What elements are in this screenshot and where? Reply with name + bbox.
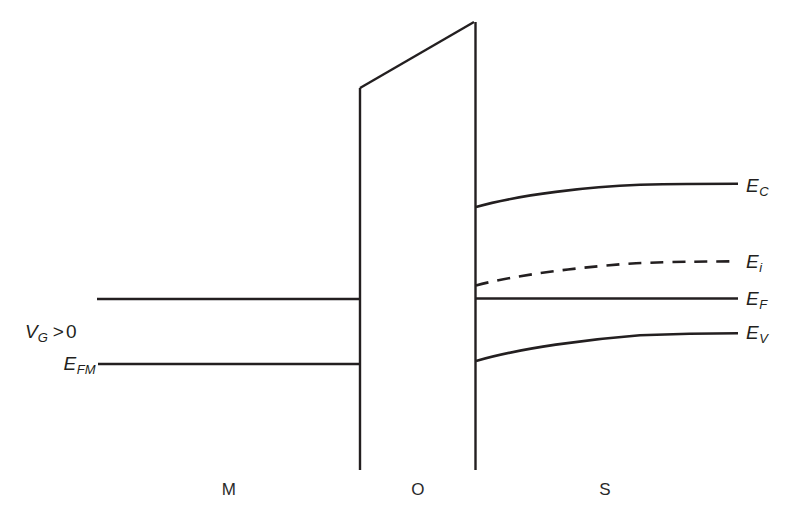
gate-bias-symbol: V [25, 321, 38, 342]
intrinsic-level-symbol: E [746, 251, 759, 272]
region-label-oxide: O [411, 480, 424, 500]
intrinsic-level-curve [476, 261, 736, 285]
metal-fermi-symbol: E [64, 353, 77, 374]
fermi-level-symbol: E [746, 288, 759, 309]
fermi-level-subscript: F [759, 297, 767, 312]
oxide-barrier-slope-line [360, 22, 474, 88]
band-diagram-figure: VG>0 EFM EC Ei EF EV M O S [0, 0, 791, 524]
gate-bias-annotation: VG>0 [25, 321, 77, 343]
metal-fermi-level-label: EFM [64, 353, 95, 375]
valence-band-symbol: E [746, 322, 759, 343]
oxide-barrier [360, 22, 476, 470]
fermi-level-label: EF [746, 288, 767, 310]
gate-bias-operator: > [48, 321, 66, 342]
valence-band-subscript: V [759, 331, 768, 346]
conduction-band-subscript: C [759, 184, 768, 199]
conduction-band-label: EC [746, 175, 768, 197]
intrinsic-level-subscript: i [759, 260, 762, 275]
intrinsic-level-label: Ei [746, 251, 762, 273]
semiconductor-bands [476, 184, 738, 361]
metal-fermi-subscript: FM [77, 362, 96, 377]
region-label-semiconductor: S [599, 480, 611, 500]
band-diagram-canvas [0, 0, 791, 524]
gate-bias-value: 0 [66, 321, 77, 342]
conduction-band-curve [476, 184, 738, 207]
region-label-metal: M [222, 480, 236, 500]
metal-region-lines [97, 299, 360, 364]
valence-band-label: EV [746, 322, 767, 344]
gate-bias-subscript: G [38, 330, 48, 345]
conduction-band-symbol: E [746, 175, 759, 196]
valence-band-curve [476, 333, 738, 361]
